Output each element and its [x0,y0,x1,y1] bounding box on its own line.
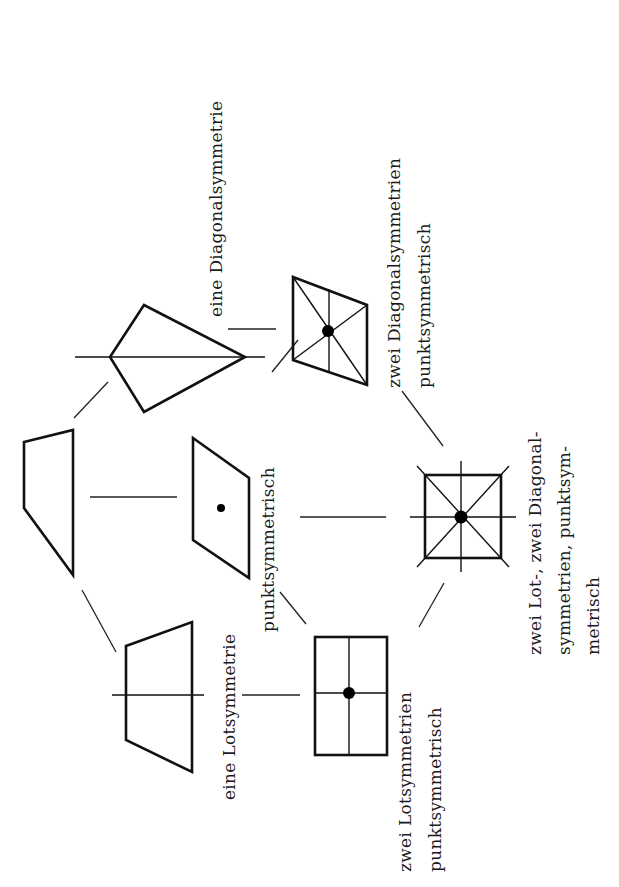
rectangle-shape [315,637,387,755]
label-rhombus-line2: punktsymmetrisch [414,223,434,388]
label-square-line1: zwei Lot-, zwei Diagonal- [525,431,545,655]
label-lot-trapezoid: eine Lotsymmetrie [219,634,239,800]
parallelogram-shape [193,438,249,578]
center-point-icon [343,687,355,699]
rhombus-shape [293,277,367,385]
label-rectangle-line1: zwei Lotsymmetrien [395,692,415,872]
quadrilateral-symmetry-diagram: eine Diagonalsymmetrie eine Lotsymmetrie… [0,0,619,887]
kite-shape [75,305,265,412]
label-square-line2: symmetrien, punktsym- [554,446,574,655]
edge-rhombus-square [402,391,443,446]
label-rectangle-line2: punktsymmetrisch [425,707,445,872]
edge-quad-lot-trapezoid [82,590,116,652]
isosceles-trapezoid-shape [112,622,204,772]
general-quadrilateral-shape [24,430,73,575]
label-square-line3: metrisch [583,577,603,655]
edge-quad-kite [74,382,108,418]
square-shape [410,461,516,572]
center-point-icon [455,511,468,524]
center-point-icon [322,325,334,337]
label-parallelogram: punktsymmetrisch [258,467,278,632]
label-kite: eine Diagonalsymmetrie [206,101,226,317]
center-point-icon [217,504,225,512]
label-rhombus-line1: zwei Diagonalsymmetrien [384,158,404,388]
edge-rectangle-square [419,583,444,627]
edge-parallelogram-rectangle [280,592,306,624]
